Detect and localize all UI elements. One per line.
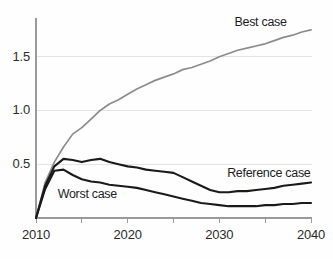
y-tick-label-1.0: 1.0 <box>2 102 30 117</box>
x-tick-label-2020: 2020 <box>110 227 146 242</box>
x-tick-label-2030: 2030 <box>201 227 237 242</box>
chart-container: 0.51.01.5 2010202020302040 Best caseRefe… <box>0 0 333 259</box>
x-tick-label-2010: 2010 <box>18 227 54 242</box>
annotation-worst-case: Worst case <box>42 187 132 201</box>
line-chart-plot <box>0 0 333 259</box>
annotation-reference-case: Reference case <box>224 166 314 180</box>
x-axis-ticks <box>36 218 311 223</box>
x-tick-label-2040: 2040 <box>293 227 329 242</box>
annotation-best-case: Best case <box>216 15 306 29</box>
y-tick-label-0.5: 0.5 <box>2 156 30 171</box>
y-tick-label-1.5: 1.5 <box>2 49 30 64</box>
